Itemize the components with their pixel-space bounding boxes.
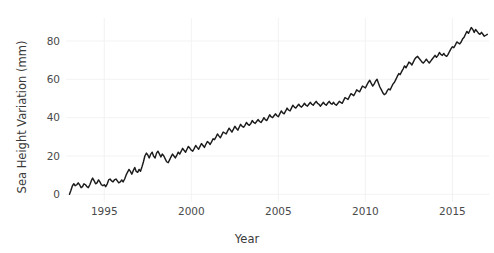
y-tick-label: 80 [47,35,60,47]
x-tick-label: 2015 [439,205,466,217]
x-tick-label: 2005 [265,205,292,217]
x-axis-title: Year [234,232,260,246]
x-tick-label: 2010 [352,205,379,217]
x-tick-label: 1995 [91,205,118,217]
y-tick-label: 60 [47,73,60,85]
chart-figure: 19952000200520102015 020406080 Year Sea … [0,0,494,253]
y-tick-label: 0 [53,188,60,200]
y-tick-label: 40 [47,111,60,123]
y-axis-title: Sea Height Variation (mm) [15,41,29,194]
x-tick-label: 2000 [178,205,205,217]
y-tick-label: 20 [47,150,60,162]
line-chart-canvas: 19952000200520102015 020406080 Year Sea … [0,0,494,253]
chart-background [0,0,494,253]
